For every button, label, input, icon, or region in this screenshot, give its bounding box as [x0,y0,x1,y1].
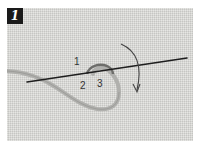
label-point-3: 3 [97,79,103,89]
stitch-illustration [7,8,193,141]
label-point-2: 2 [80,81,86,91]
embroidery-photo: 1 1 2 3 [7,8,193,141]
needle [27,58,187,82]
label-point-1: 1 [74,57,80,67]
step-badge: 1 [7,8,23,24]
